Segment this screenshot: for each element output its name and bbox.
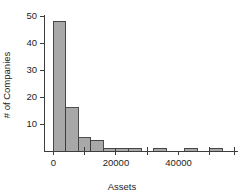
- x-axis-title: Assets: [108, 181, 137, 192]
- y-tick-label: 10: [26, 118, 37, 129]
- histogram-bar: [53, 21, 66, 151]
- x-tick-label: 0: [51, 157, 56, 168]
- histogram-bar: [66, 108, 79, 151]
- y-tick-label: 50: [26, 10, 37, 21]
- histogram-svg: 1020304050 02000040000 Assets # of Compa…: [0, 0, 244, 194]
- y-tick-label: 40: [26, 37, 37, 48]
- bars-group: [53, 21, 222, 151]
- y-axis-title: # of Companies: [1, 51, 12, 118]
- x-tick-label: 40000: [165, 157, 191, 168]
- x-tick-label: 20000: [103, 157, 129, 168]
- y-axis: 1020304050: [26, 10, 44, 151]
- histogram-bar: [91, 140, 104, 151]
- histogram-chart: 1020304050 02000040000 Assets # of Compa…: [0, 0, 244, 194]
- y-tick-label: 30: [26, 64, 37, 75]
- y-axis-ticks: 1020304050: [26, 10, 44, 129]
- y-tick-label: 20: [26, 91, 37, 102]
